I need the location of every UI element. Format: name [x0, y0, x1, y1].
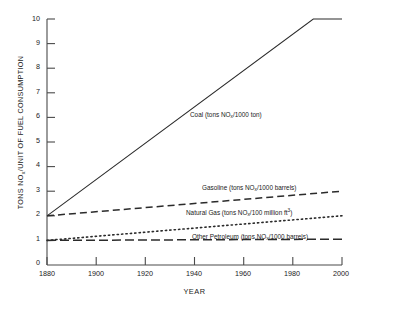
series-label-gasoline: Gasoline (tons NOx/1000 barrels): [202, 184, 296, 193]
series-label-other-petroleum-pre: Other Petroleum (tons NO: [192, 233, 266, 240]
x-tick-marks: [47, 257, 342, 265]
series-label-coal-post: /1000 ton): [233, 111, 262, 118]
series-label-coal-sub: x: [231, 114, 233, 119]
plot-area: [0, 0, 412, 309]
y-tick-marks: [47, 19, 55, 240]
series-label-other-petroleum-post: /1000 barrels): [269, 233, 308, 240]
series-label-other-petroleum: Other Petroleum (tons NOx/1000 barrels): [192, 233, 308, 242]
series-label-other-petroleum-sub: x: [266, 236, 268, 241]
series-label-natural-gas-tail: ): [290, 209, 292, 216]
series-label-gasoline-pre: Gasoline (tons NO: [202, 184, 255, 191]
series-label-coal: Coal (tons NOx/1000 ton): [190, 111, 262, 120]
series-label-natural-gas-pre: Natural Gas (tons NO: [186, 209, 247, 216]
series-label-coal-pre: Coal (tons NO: [190, 111, 231, 118]
series-label-gasoline-post: /1000 barrels): [257, 184, 296, 191]
series-label-natural-gas-post: /100 million ft: [250, 209, 288, 216]
chart-figure: TONS NOx/UNIT OF FUEL CONSUMPTION 10 9 8…: [0, 0, 412, 309]
series-label-natural-gas-sub: x: [247, 212, 249, 217]
series-label-gasoline-sub: x: [255, 187, 257, 192]
series-label-natural-gas-sup: 3: [288, 208, 291, 213]
series-label-natural-gas: Natural Gas (tons NOx/100 million ft3): [186, 209, 292, 218]
